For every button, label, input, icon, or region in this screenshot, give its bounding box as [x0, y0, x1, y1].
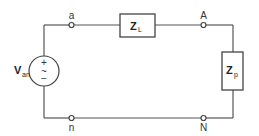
- node-a-icon: [69, 23, 74, 28]
- source-label-subscript: an: [22, 71, 30, 78]
- wires: [44, 25, 233, 118]
- load-impedance-label: Z: [226, 64, 233, 76]
- circuit-diagram: + ~ − V an Z L Z p a A n N: [0, 0, 259, 136]
- voltage-source: + ~ −: [29, 56, 59, 86]
- node-N-icon: [201, 116, 206, 121]
- node-N-label: N: [200, 122, 207, 133]
- node-n-icon: [69, 116, 74, 121]
- load-impedance-subscript: p: [234, 71, 238, 79]
- source-label: V: [14, 64, 22, 76]
- node-a-label: a: [69, 10, 75, 21]
- node-A-icon: [201, 23, 206, 28]
- line-impedance-label: Z: [130, 20, 137, 32]
- node-A-label: A: [200, 10, 207, 21]
- node-n-label: n: [69, 122, 75, 133]
- line-impedance-subscript: L: [138, 26, 142, 33]
- source-minus: −: [41, 73, 47, 84]
